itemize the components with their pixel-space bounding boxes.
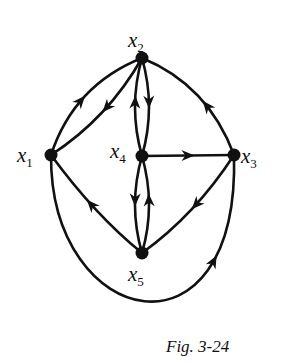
edge-x1-to-x2 bbox=[51, 58, 142, 155]
node-label-x2: x2 bbox=[127, 28, 144, 55]
node-label-x3: x3 bbox=[240, 144, 257, 171]
node-label-x5: x5 bbox=[127, 262, 144, 289]
node-label-x1: x1 bbox=[16, 143, 33, 170]
edge-x5-to-x1 bbox=[51, 155, 142, 253]
graph-figure: x1x2x3x4x5 Fig. 3-24 bbox=[0, 0, 281, 363]
edge-x2-to-x1 bbox=[51, 58, 142, 155]
edge-x3-to-x2 bbox=[142, 58, 234, 155]
node-label-x4: x4 bbox=[109, 139, 126, 166]
edge-x4-to-x5 bbox=[135, 156, 142, 253]
arrowhead-x3-to-x2 bbox=[203, 101, 215, 115]
node-x4 bbox=[136, 150, 149, 163]
node-x5 bbox=[136, 247, 149, 260]
node-x1 bbox=[45, 149, 58, 162]
edge-x2-to-x4 bbox=[142, 58, 149, 156]
edge-x3-to-x5 bbox=[142, 155, 234, 253]
edges bbox=[51, 58, 234, 302]
node-x3 bbox=[228, 149, 241, 162]
figure-caption: Fig. 3-24 bbox=[165, 337, 230, 356]
